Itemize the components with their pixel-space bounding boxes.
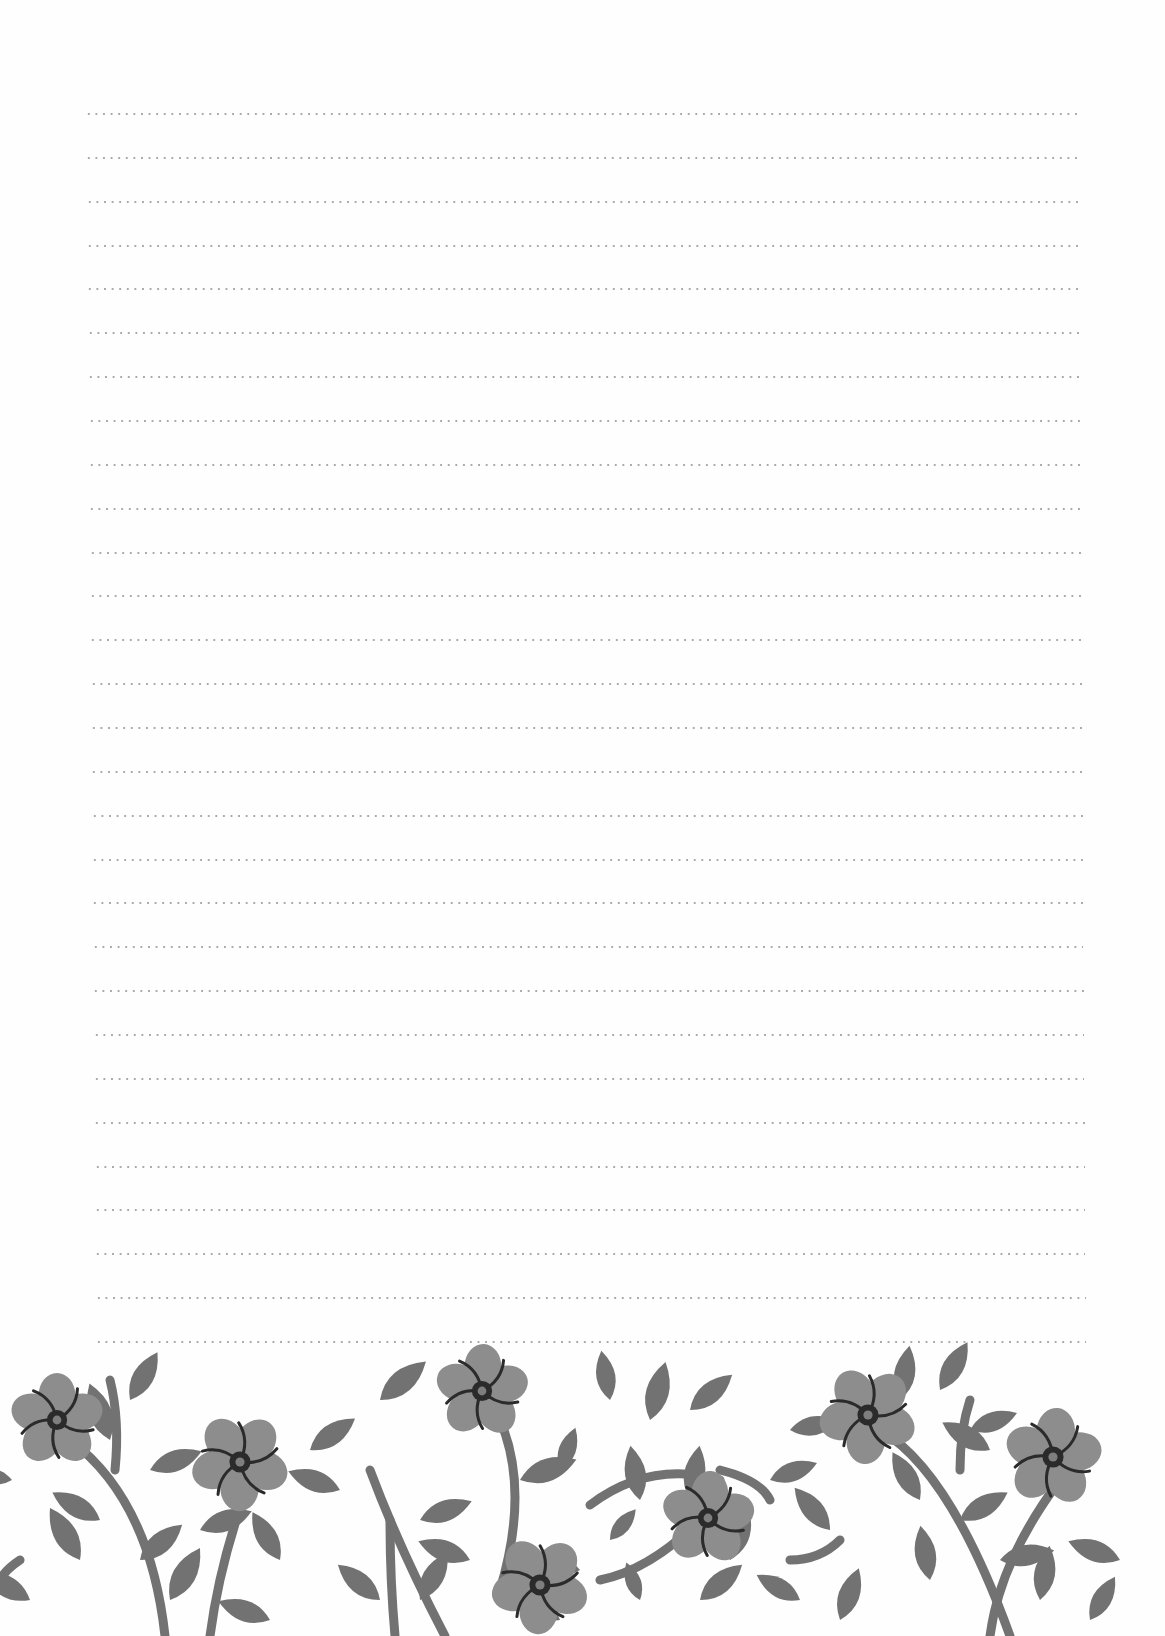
- writing-lines: [0, 0, 1165, 1360]
- leaf-icon: [331, 1557, 387, 1608]
- writing-line: [88, 420, 1081, 422]
- leaf-icon: [285, 1461, 344, 1499]
- leaf-icon: [592, 1349, 619, 1402]
- writing-line: [86, 288, 1079, 290]
- writing-line: [92, 990, 1084, 992]
- leaf-icon: [910, 1524, 940, 1582]
- writing-line: [94, 1253, 1085, 1255]
- writing-line: [86, 245, 1079, 247]
- writing-line: [94, 1166, 1085, 1168]
- flower-center-dot: [478, 1387, 487, 1396]
- writing-line: [91, 902, 1083, 904]
- flower-icon: [657, 1470, 758, 1568]
- writing-line: [89, 639, 1081, 641]
- stationery-page: [0, 0, 1165, 1636]
- flower-icon: [431, 1343, 532, 1440]
- leaf-icon: [931, 1340, 977, 1395]
- writing-line: [93, 1034, 1085, 1036]
- writing-line: [88, 508, 1080, 510]
- flower-icon: [187, 1411, 293, 1512]
- writing-line: [91, 859, 1083, 861]
- flower-center-dot: [863, 1410, 872, 1419]
- writing-line: [85, 157, 1078, 159]
- writing-line: [86, 201, 1079, 203]
- flower-center-dot: [1048, 1452, 1057, 1461]
- leaf-icon: [160, 1542, 210, 1605]
- leaf-icon: [373, 1353, 434, 1409]
- flower-icon: [487, 1533, 592, 1635]
- writing-line: [87, 376, 1080, 378]
- writing-line: [90, 727, 1082, 729]
- leaf-icon: [767, 1454, 820, 1489]
- flower-center-dot: [53, 1416, 62, 1425]
- leaf-icon: [1065, 1531, 1124, 1569]
- writing-line: [93, 1078, 1084, 1080]
- floral-border: [0, 1340, 1165, 1636]
- leaf-icon: [752, 1567, 805, 1608]
- leaf-icon: [1082, 1572, 1123, 1625]
- leaf-icon: [304, 1410, 361, 1459]
- leaf-icon: [639, 1359, 677, 1423]
- leaf-icon: [416, 1491, 475, 1529]
- writing-line: [90, 683, 1082, 685]
- leaf-icon: [604, 1504, 641, 1544]
- flower-center-dot: [704, 1514, 713, 1523]
- writing-line: [89, 552, 1081, 554]
- writing-line: [85, 113, 1078, 115]
- leaf-icon: [0, 1466, 13, 1488]
- writing-line: [95, 1297, 1086, 1299]
- writing-line: [88, 464, 1080, 466]
- floral-border-illustration: [0, 1340, 1165, 1636]
- leaf-icon: [683, 1367, 739, 1418]
- leaf-icon: [787, 1481, 838, 1537]
- leaf-icon: [693, 1557, 749, 1608]
- writing-line: [90, 771, 1082, 773]
- leaf-icon: [830, 1565, 868, 1624]
- leaf-icon: [121, 1347, 167, 1405]
- writing-line: [91, 815, 1083, 817]
- leaf-icon: [243, 1507, 289, 1565]
- writing-line: [92, 946, 1084, 948]
- flower-center-dot: [535, 1580, 544, 1589]
- leaf-icon: [215, 1591, 274, 1629]
- leaf-icon: [620, 1444, 650, 1502]
- flower-center-dot: [235, 1457, 244, 1466]
- writing-line: [94, 1209, 1085, 1211]
- writing-line: [89, 595, 1081, 597]
- writing-line: [87, 332, 1080, 334]
- writing-line: [93, 1122, 1084, 1124]
